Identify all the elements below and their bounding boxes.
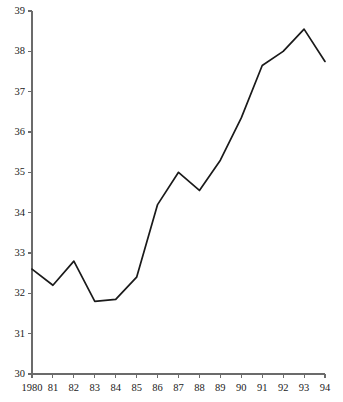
line-chart: 30313233343536373839 1980818283848586878… [0,0,343,402]
axes [32,11,325,374]
y-axis-ticks [28,11,32,374]
x-axis-tick-label: 88 [194,383,205,394]
x-axis-tick-label: 90 [236,383,247,394]
x-axis-tick-label: 91 [257,383,268,394]
plot-area [0,0,343,402]
data-line-series-1 [32,29,325,301]
x-axis-tick-label: 93 [299,383,310,394]
x-axis-tick-label: 81 [48,383,59,394]
data-series-group [32,29,325,301]
x-axis-tick-label: 82 [69,383,80,394]
x-axis-tick-label: 84 [110,383,121,394]
y-axis-tick-label: 33 [15,248,26,259]
y-axis-tick-label: 36 [15,127,26,138]
x-axis-tick-label: 89 [215,383,226,394]
y-axis-tick-label: 31 [15,328,26,339]
y-axis-tick-label: 38 [15,46,26,57]
x-axis-tick-label: 87 [173,383,184,394]
x-axis-tick-label: 83 [90,383,101,394]
y-axis-tick-label: 39 [15,6,26,17]
x-axis-tick-label: 85 [131,383,142,394]
y-axis-tick-label: 32 [15,288,26,299]
x-axis-ticks [32,374,325,378]
x-axis-tick-label: 1980 [22,383,43,394]
y-axis-tick-label: 35 [15,167,26,178]
x-axis-tick-label: 92 [278,383,289,394]
x-axis-tick-label: 94 [320,383,331,394]
y-axis-tick-label: 30 [15,369,26,380]
x-axis-tick-label: 86 [152,383,163,394]
y-axis-tick-label: 34 [15,207,26,218]
y-axis-tick-label: 37 [15,86,26,97]
